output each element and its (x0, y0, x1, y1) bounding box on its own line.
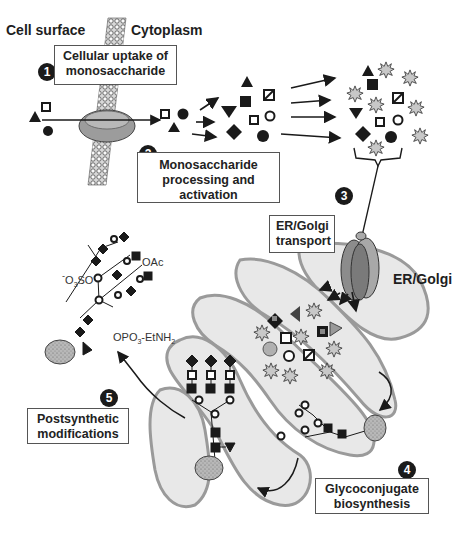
step-1-box: Cellular uptake of monosaccharide (54, 45, 177, 85)
phospho-prefix: OPO (113, 331, 137, 343)
phosphoethanolamine-label: OPO3-EtNH2 (113, 331, 175, 345)
phospho-mid: -EtNH (141, 331, 171, 343)
step-4-box: Glycoconjugate biosynthesis (315, 478, 429, 514)
step-5-box: Postsynthetic modifications (27, 408, 129, 444)
step-2-line2: processing and (144, 173, 273, 188)
phospho-sub2: 2 (171, 338, 175, 345)
step-5-line1: Postsynthetic (34, 412, 122, 427)
er-golgi-transporter (341, 232, 379, 300)
step-3-box: ER/Golgi transport (269, 215, 335, 253)
step-5-badge: 5 (100, 389, 118, 407)
step-2-line1: Monosaccharide (144, 158, 273, 173)
step-1-line1: Cellular uptake of (61, 49, 170, 64)
step-4-line1: Glycoconjugate (322, 482, 422, 497)
monosaccharide-transporter (79, 110, 135, 142)
step-2-box: Monosaccharide processing and activation (137, 152, 280, 203)
er-golgi-label: ER/Golgi (393, 271, 452, 287)
plasma-membrane (88, 18, 126, 185)
step-1-line2: monosaccharide (61, 64, 170, 79)
step-4-line2: biosynthesis (322, 497, 422, 512)
sulfate-suffix: SO (78, 274, 94, 286)
step-3-badge: 3 (335, 187, 353, 205)
step-5-line2: modifications (34, 427, 122, 442)
activated-sugar-nucleotides (347, 62, 428, 156)
cell-surface-label: Cell surface (6, 22, 85, 38)
step-4-badge: 4 (398, 461, 416, 479)
step-3-line2: transport (276, 234, 328, 249)
step-3-line1: ER/Golgi (276, 219, 328, 234)
sulfate-prefix: O (65, 274, 74, 286)
step-2-line3: activation (144, 188, 273, 203)
sulfate-label: -O3SO (62, 271, 93, 288)
cytoplasm-label: Cytoplasm (131, 22, 203, 38)
acetyl-label: OAc (142, 256, 163, 268)
